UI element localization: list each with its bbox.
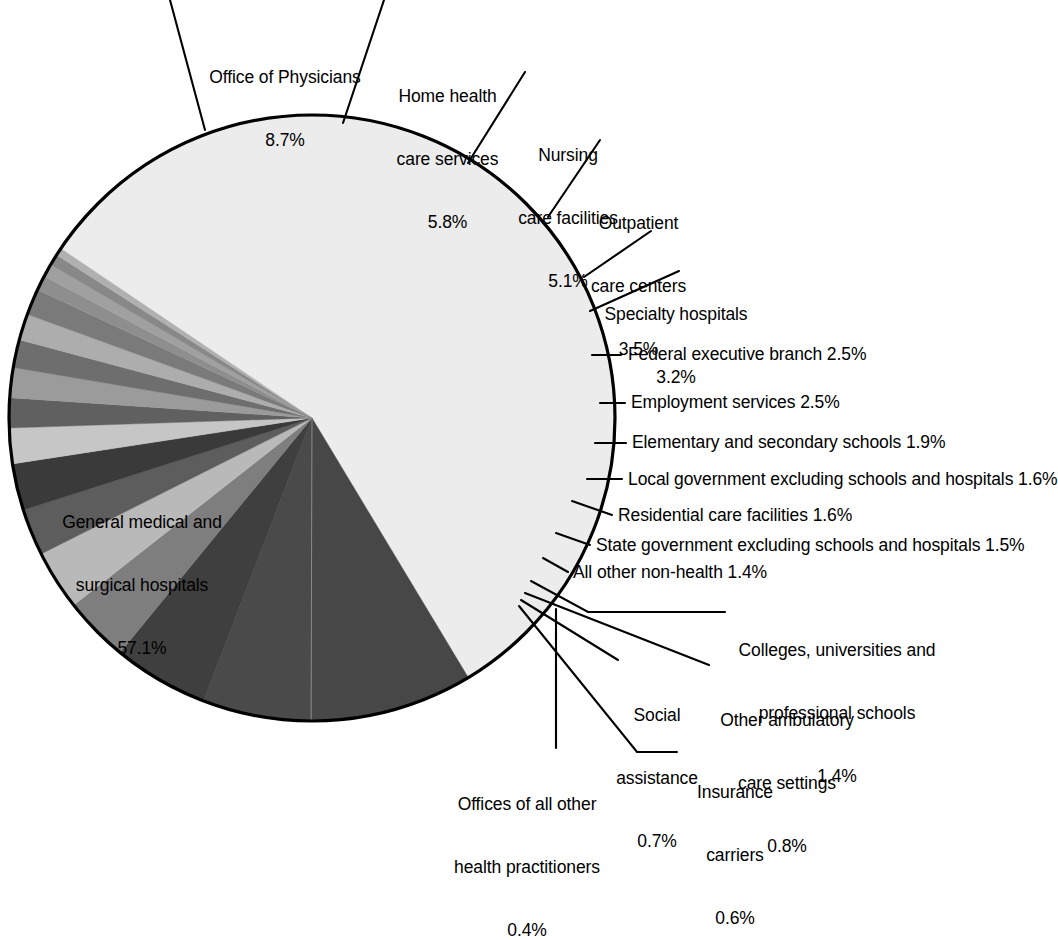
label-elementary-secondary: Elementary and secondary schools 1.9% <box>632 432 945 453</box>
label-insurance-carriers: Insurance carriers 0.6% <box>680 740 790 940</box>
label-general-medical-line1: General medical and <box>32 512 252 533</box>
label-office-of-physicians-line1: Office of Physicians <box>185 67 385 88</box>
leader-line-state-government <box>556 533 590 545</box>
label-offices-other-health-line1: Offices of all other <box>437 794 617 815</box>
label-employment-services: Employment services 2.5% <box>631 392 840 413</box>
label-residential-care: Residential care facilities 1.6% <box>618 505 852 526</box>
label-colleges-universities-line1: Colleges, universities and <box>728 640 946 661</box>
label-general-medical-value: 57.1% <box>32 638 252 659</box>
label-local-government: Local government excluding schools and h… <box>628 469 1058 490</box>
label-home-health-care-line2: care services <box>385 149 510 170</box>
label-state-government: State government excluding schools and h… <box>596 535 1025 556</box>
label-nursing-care-line1: Nursing <box>506 145 630 166</box>
label-outpatient-care-line1: Outpatient <box>576 213 701 234</box>
label-offices-other-health-value: 0.4% <box>437 920 617 940</box>
leader-line-social-assistance <box>521 600 618 660</box>
label-federal-executive: Federal executive branch 2.5% <box>628 344 866 365</box>
leader-line-residential-care <box>572 501 612 515</box>
label-insurance-carriers-line2: carriers <box>680 845 790 866</box>
label-home-health-care-value: 5.8% <box>385 212 510 233</box>
label-all-other-non-health: All other non-health 1.4% <box>573 562 767 583</box>
label-offices-other-health: Offices of all other health practitioner… <box>437 752 617 940</box>
label-offices-other-health-line2: health practitioners <box>437 857 617 878</box>
label-general-medical: General medical and surgical hospitals 5… <box>32 470 252 701</box>
label-office-of-physicians: Office of Physicians 8.7% <box>185 25 385 193</box>
label-office-of-physicians-value: 8.7% <box>185 130 385 151</box>
label-social-assistance-line1: Social <box>607 705 707 726</box>
label-home-health-care-line1: Home health <box>385 86 510 107</box>
label-home-health-care: Home health care services 5.8% <box>385 44 510 275</box>
leader-line-all-other-non-health <box>543 558 568 572</box>
leader-line-other-ambulatory <box>525 593 709 665</box>
label-general-medical-line2: surgical hospitals <box>32 575 252 596</box>
label-insurance-carriers-value: 0.6% <box>680 908 790 929</box>
label-other-ambulatory-line1: Other ambulatory <box>712 710 862 731</box>
label-specialty-hospitals-line1: Specialty hospitals <box>591 304 761 325</box>
label-insurance-carriers-line1: Insurance <box>680 782 790 803</box>
label-specialty-hospitals-value: 3.2% <box>591 367 761 388</box>
